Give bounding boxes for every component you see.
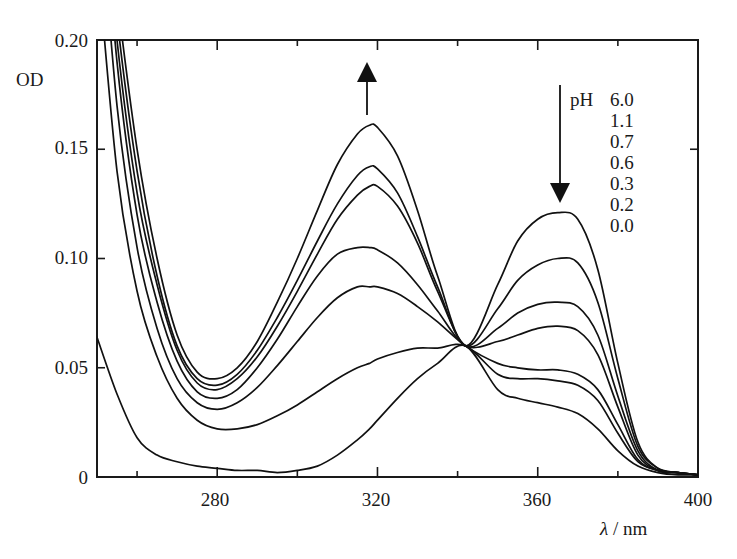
y-tick-label-0: 0 bbox=[79, 467, 89, 488]
y-axis-title: OD bbox=[16, 69, 43, 90]
x-tick-label-320: 320 bbox=[362, 489, 391, 510]
x-tick-label-400: 400 bbox=[684, 489, 713, 510]
y-tick-label-0-15: 0.15 bbox=[55, 137, 88, 158]
legend-entry: 0.6 bbox=[610, 152, 634, 173]
legend-title: pH bbox=[570, 89, 594, 110]
spectrum-curve bbox=[97, 0, 698, 475]
spectrum-curve bbox=[97, 0, 698, 475]
legend-entry: 0.3 bbox=[610, 173, 634, 194]
legend-entry: 6.0 bbox=[610, 89, 634, 110]
chart-canvas: 0 0.05 0.10 0.15 0.20 280 320 360 400 OD… bbox=[0, 0, 737, 559]
legend-entry: 0.7 bbox=[610, 131, 634, 152]
spectrum-curve bbox=[97, 0, 698, 475]
y-tick-label-0-05: 0.05 bbox=[55, 357, 88, 378]
ph-legend: pH 6.0 1.1 0.7 0.6 0.3 0.2 0.0 bbox=[570, 89, 634, 236]
increase-arrow-icon bbox=[357, 62, 377, 115]
spectrum-curve bbox=[97, 0, 698, 475]
x-axis-title-text: λ / nm bbox=[599, 518, 648, 539]
caption-fragment bbox=[0, 545, 60, 559]
legend-entry: 0.0 bbox=[610, 215, 634, 236]
x-tick-label-360: 360 bbox=[523, 489, 552, 510]
spectra-curves bbox=[97, 0, 698, 475]
y-tick-label-0-20: 0.20 bbox=[55, 30, 88, 51]
uv-vis-absorption-chart: 0 0.05 0.10 0.15 0.20 280 320 360 400 OD… bbox=[0, 0, 737, 559]
spectrum-curve bbox=[97, 0, 698, 475]
spectrum-curve bbox=[97, 0, 698, 475]
x-tick-label-280: 280 bbox=[201, 489, 230, 510]
x-axis-unit: / nm bbox=[608, 518, 647, 539]
y-tick-label-0-10: 0.10 bbox=[55, 247, 88, 268]
legend-entry: 0.2 bbox=[610, 194, 634, 215]
lambda-symbol: λ bbox=[599, 518, 608, 539]
decrease-arrow-icon bbox=[550, 85, 570, 203]
legend-entry: 1.1 bbox=[610, 110, 634, 131]
